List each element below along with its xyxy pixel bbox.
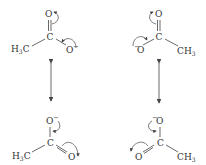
atom-oxygen-top: O	[155, 9, 162, 19]
resonance-diagram: O C H3C O − O C CH3 − O O − C	[0, 0, 206, 165]
curved-arrow-icon	[149, 121, 156, 131]
structure-bottom-right: − O C CH3 O	[131, 114, 196, 163]
atom-carbon: C	[47, 138, 54, 148]
single-bond-methyl	[32, 145, 45, 152]
methyl-group: H3C	[12, 151, 31, 162]
atom-oxygen-side: O	[68, 152, 75, 162]
curved-arrow-icon	[52, 12, 58, 24]
atom-oxygen-top: O	[45, 9, 52, 19]
methyl-group: CH3	[177, 46, 196, 57]
atom-oxygen-top: O	[156, 116, 163, 126]
curved-arrow-icon	[53, 121, 60, 131]
structure-top-right: O C CH3 − O	[133, 9, 196, 57]
atom-carbon: C	[157, 138, 164, 148]
single-bond-methyl	[32, 39, 45, 46]
methyl-group: CH3	[177, 152, 196, 163]
curved-arrow-icon	[131, 142, 148, 151]
structure-bottom-left: O − C H3C O	[12, 114, 78, 162]
single-bond-methyl	[165, 39, 178, 46]
atom-oxygen-side: O	[137, 45, 144, 55]
atom-carbon: C	[47, 32, 54, 42]
single-bond-oxygen	[56, 39, 66, 45]
methyl-group: H3C	[11, 44, 30, 55]
structure-top-left: O C H3C O −	[11, 9, 79, 55]
negative-charge: −	[53, 114, 59, 122]
single-bond-oxygen	[143, 39, 154, 45]
atom-carbon: C	[156, 32, 163, 42]
atom-oxygen-side: O	[135, 152, 142, 162]
single-bond-methyl	[166, 145, 178, 152]
